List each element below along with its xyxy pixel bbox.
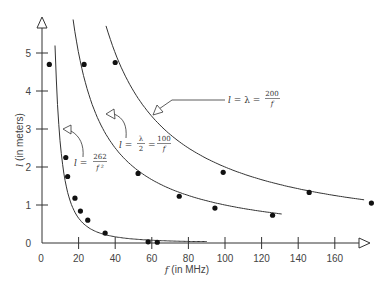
fraction-denominator: f xyxy=(270,100,275,108)
data-point xyxy=(113,60,118,65)
fraction-denominator: f ² xyxy=(95,164,104,172)
data-point xyxy=(72,196,77,201)
x-tick-label: 100 xyxy=(217,253,234,264)
data-point xyxy=(85,218,90,223)
x-axis-title: f (in MHz) xyxy=(164,264,209,275)
y-tick-label: 1 xyxy=(25,200,31,211)
pointer-arrow-icon xyxy=(63,125,71,134)
data-point xyxy=(177,194,182,199)
annotation-label: l = xyxy=(119,140,132,150)
equals-sign: = xyxy=(148,140,156,150)
data-point xyxy=(78,208,83,213)
data-point xyxy=(307,190,312,195)
data-point xyxy=(65,174,70,179)
fraction-numerator: 262 xyxy=(93,153,106,161)
axes: 012345 020406080100120140160 xyxy=(25,17,370,264)
annotation-262-over-f-squared: l = 262 f ² xyxy=(63,125,107,172)
x-tick-label: 40 xyxy=(110,253,122,264)
fraction-numerator: 100 xyxy=(157,135,170,143)
leader-line xyxy=(114,114,126,138)
y-tick-label: 4 xyxy=(25,86,31,97)
x-tick-label: 0 xyxy=(38,253,44,264)
x-axis-arrow-icon xyxy=(359,238,370,248)
fitted-curve xyxy=(106,26,364,200)
y-tick-label: 2 xyxy=(25,162,31,173)
data-point xyxy=(221,170,226,175)
x-tick-label: 60 xyxy=(146,253,158,264)
x-tick-label: 80 xyxy=(183,253,195,264)
annotation-100-over-f: l = λ 2 = 100 f xyxy=(106,109,171,153)
y-tick-label: 5 xyxy=(25,48,31,59)
data-point xyxy=(212,205,217,210)
chart-svg: 012345 020406080100120140160 f (in MHz) … xyxy=(0,0,384,284)
fitted-curve xyxy=(73,20,282,215)
fraction-numerator: λ xyxy=(139,135,144,143)
fraction-denominator: 2 xyxy=(139,145,143,153)
data-point xyxy=(135,171,140,176)
data-point xyxy=(270,213,275,218)
y-tick-label: 0 xyxy=(25,238,31,249)
fraction-denominator: f xyxy=(162,145,167,153)
annotation-label: l = λ = xyxy=(228,95,260,105)
annotation-label: l = xyxy=(74,158,87,168)
data-point xyxy=(47,62,52,67)
x-tick-label: 120 xyxy=(253,253,270,264)
y-tick-label: 3 xyxy=(25,124,31,135)
leader-line xyxy=(71,131,83,157)
data-point xyxy=(146,239,151,244)
y-axis-title: l (in meters) xyxy=(14,113,25,167)
curves xyxy=(55,20,364,242)
pointer-arrow-icon xyxy=(106,109,115,119)
data-point xyxy=(369,201,374,206)
data-point xyxy=(81,62,86,67)
data-point xyxy=(63,155,68,160)
data-point xyxy=(103,231,108,236)
chart-figure: 012345 020406080100120140160 f (in MHz) … xyxy=(0,0,384,284)
y-ticks: 012345 xyxy=(25,48,48,249)
data-point xyxy=(155,240,160,245)
pointer-arrow-icon xyxy=(153,105,163,115)
fraction-numerator: 200 xyxy=(265,90,278,98)
x-tick-label: 160 xyxy=(326,253,343,264)
x-tick-label: 140 xyxy=(290,253,307,264)
x-tick-label: 20 xyxy=(73,253,85,264)
leader-line xyxy=(159,100,172,109)
y-axis-arrow-icon xyxy=(37,17,47,28)
annotation-200-over-f: l = λ = 200 f xyxy=(153,90,280,115)
